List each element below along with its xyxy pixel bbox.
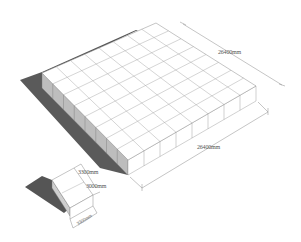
width-dimension-label: 26400mm (197, 144, 220, 150)
unit-top-width-label: 3300mm (78, 169, 98, 175)
diagram-canvas (0, 0, 301, 242)
depth-dimension-label: 26400mm (218, 49, 241, 55)
unit-height-label: 3000mm (86, 183, 106, 189)
